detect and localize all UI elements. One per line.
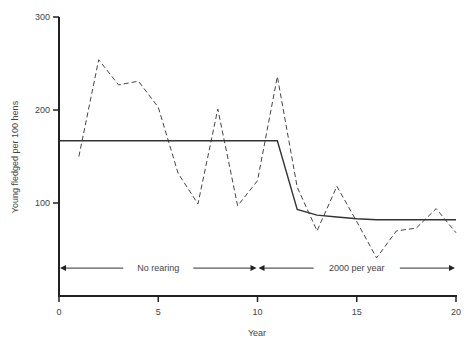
y-tick-label: 200 (35, 105, 50, 115)
series-line-observed (79, 60, 456, 258)
series-line-model (59, 141, 456, 220)
series-group (59, 60, 456, 258)
x-tick-label: 15 (352, 307, 362, 317)
annotation-label: No rearing (137, 263, 179, 273)
chart: 05101520100200300 No rearing2000 per yea… (0, 0, 474, 351)
y-tick-label: 300 (35, 12, 50, 22)
annotation-label: 2000 per year (329, 263, 385, 273)
arrowhead-left-icon (259, 265, 265, 271)
annotations: No rearing2000 per year (60, 263, 455, 273)
arrowhead-left-icon (60, 265, 66, 271)
y-axis-title: Young fledged per 100 hens (10, 100, 20, 213)
x-tick-label: 5 (156, 307, 161, 317)
x-tick-label: 20 (451, 307, 461, 317)
x-tick-label: 0 (56, 307, 61, 317)
arrowhead-right-icon (449, 265, 455, 271)
axes: 05101520100200300 (35, 12, 461, 317)
arrowhead-right-icon (251, 265, 257, 271)
x-tick-label: 10 (252, 307, 262, 317)
x-axis-title: Year (248, 328, 266, 338)
y-tick-label: 100 (35, 198, 50, 208)
